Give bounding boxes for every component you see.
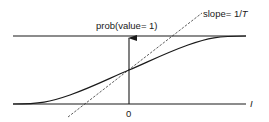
slope-label-variable: T [242, 8, 249, 19]
probability-label: prob(value= 1) [96, 20, 158, 31]
origin-label: 0 [126, 108, 131, 119]
x-axis-label: I [250, 98, 253, 109]
slope-label: slope= 1/T [203, 8, 249, 19]
slope-label-prefix: slope= 1/ [203, 8, 242, 19]
sigmoid-diagram: prob(value= 1) slope= 1/T 0 I [0, 0, 269, 122]
